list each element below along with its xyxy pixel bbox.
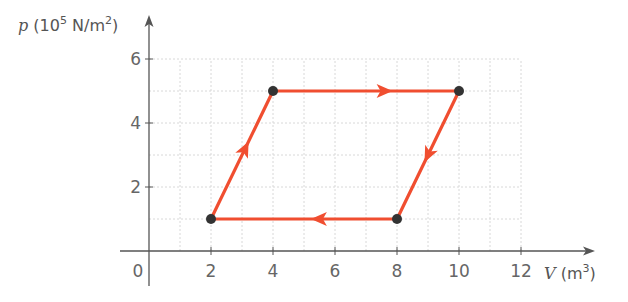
y-axis-unit-exponent-2: 2	[105, 14, 112, 27]
x-axis-unit-open: (m	[556, 264, 583, 283]
y-tick-label: 4	[130, 113, 141, 133]
vertex-dot	[392, 214, 402, 224]
x-tick-label: 0	[133, 261, 144, 281]
x-tick-label: 10	[448, 261, 470, 281]
vertex-dot	[454, 86, 464, 96]
vertex-dot	[206, 214, 216, 224]
x-tick-label: 4	[268, 261, 279, 281]
y-axis-unit-exponent-1: 5	[60, 14, 67, 27]
y-axis-label-text: p (105 N/m2)	[18, 14, 118, 35]
y-tick-label: 2	[130, 177, 141, 197]
x-tick-label: 6	[330, 261, 341, 281]
axes	[120, 15, 595, 286]
grid	[149, 59, 521, 251]
y-axis-unit-open: (10	[28, 16, 60, 35]
vertex-dot	[268, 86, 278, 96]
y-axis-symbol: p	[18, 16, 28, 35]
pv-diagram: 024681012246 p (105 N/m2) V (m3)	[0, 0, 628, 302]
x-axis-label-text: V (m3)	[544, 262, 596, 283]
y-axis-unit-mid: N/m	[67, 16, 105, 35]
x-axis-unit-exponent: 3	[582, 262, 589, 275]
y-axis-unit-close: )	[112, 16, 118, 35]
x-tick-label: 12	[510, 261, 532, 281]
ticks: 024681012246	[130, 49, 532, 281]
y-axis-label: p (105 N/m2)	[18, 14, 118, 35]
x-axis-unit-close: )	[589, 264, 595, 283]
direction-arrow-icon	[235, 138, 255, 159]
x-tick-label: 2	[206, 261, 217, 281]
x-axis-label: V (m3)	[544, 262, 596, 283]
y-tick-label: 6	[130, 49, 141, 69]
x-tick-label: 8	[392, 261, 403, 281]
pv-diagram-svg: 024681012246 p (105 N/m2) V (m3)	[0, 0, 628, 302]
